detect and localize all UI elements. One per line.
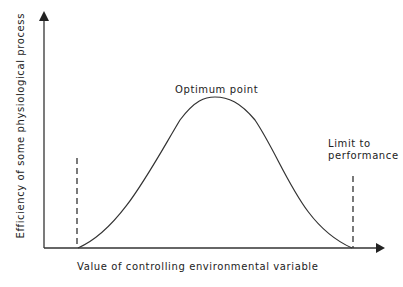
- y-axis-arrow-icon: [39, 11, 49, 21]
- limit-label-line1: Limit to: [328, 138, 371, 149]
- optimum-point-label: Optimum point: [175, 84, 258, 95]
- x-axis-label: Value of controlling environmental varia…: [77, 261, 318, 272]
- performance-curve: [78, 97, 352, 248]
- limit-label-line2: performance: [328, 150, 399, 161]
- y-axis-label: Efficiency of some physiological process: [15, 39, 26, 239]
- x-axis-arrow-icon: [376, 243, 385, 253]
